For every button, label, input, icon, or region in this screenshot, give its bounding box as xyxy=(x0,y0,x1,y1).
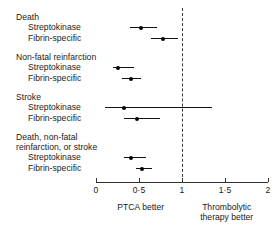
estimate-point xyxy=(116,66,120,70)
estimate-point xyxy=(161,37,165,41)
right-direction-caption-line2: therapy better xyxy=(200,212,253,222)
row-label: Fibrin-specific xyxy=(28,73,81,83)
estimate-point xyxy=(122,106,126,110)
x-axis-tick xyxy=(139,178,140,182)
row-label: Streptokinase xyxy=(28,62,81,72)
estimate-point xyxy=(139,26,143,30)
confidence-interval-line xyxy=(124,157,146,158)
null-effect-line xyxy=(182,8,183,182)
group-header-4: Death, non-fatal xyxy=(16,132,77,142)
group-header-4: reinfarction, or stroke xyxy=(16,142,97,152)
confidence-interval-line xyxy=(136,168,152,169)
x-axis-tick-label: 0·5 xyxy=(133,186,145,195)
forest-plot: DeathStreptokinaseFibrin-specificNon-fat… xyxy=(0,0,278,231)
estimate-point xyxy=(140,167,144,171)
group-header-2: Non-fatal reinfarction xyxy=(16,52,96,62)
group-header-3: Stroke xyxy=(16,92,41,102)
x-axis-tick xyxy=(225,178,226,182)
x-axis-line xyxy=(96,182,268,183)
estimate-point xyxy=(129,77,133,81)
row-label: Streptokinase xyxy=(28,22,81,32)
x-axis-tick xyxy=(268,178,269,182)
row-label: Streptokinase xyxy=(28,102,81,112)
x-axis-tick xyxy=(96,178,97,182)
group-header-1: Death xyxy=(16,12,39,22)
estimate-point xyxy=(135,117,139,121)
x-axis-tick-label: 1 xyxy=(180,186,185,195)
estimate-point xyxy=(129,156,133,160)
confidence-interval-line xyxy=(105,107,213,108)
confidence-interval-line xyxy=(124,118,161,119)
x-axis-tick xyxy=(182,178,183,182)
row-label: Fibrin-specific xyxy=(28,113,81,123)
x-axis-tick-label: 0 xyxy=(94,186,99,195)
x-axis-tick-label: 2 xyxy=(266,186,271,195)
row-label: Fibrin-specific xyxy=(28,33,81,43)
row-label: Streptokinase xyxy=(28,152,81,162)
confidence-interval-line xyxy=(130,27,158,28)
left-direction-caption: PTCA better xyxy=(117,202,164,212)
x-axis-tick-label: 1·5 xyxy=(219,186,231,195)
row-label: Fibrin-specific xyxy=(28,163,81,173)
right-direction-caption-line1: Thrombolytic xyxy=(202,202,251,212)
